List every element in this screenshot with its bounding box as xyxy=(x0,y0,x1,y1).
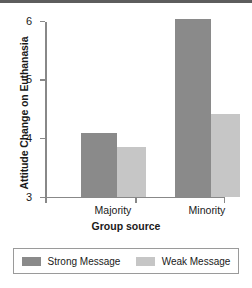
legend-label: Strong Message xyxy=(48,256,121,267)
x-axis-tick-label: Minority xyxy=(189,204,226,216)
legend-entry: Strong Message xyxy=(22,256,121,267)
legend-label: Weak Message xyxy=(162,256,231,267)
y-axis-title: Attitude Change on Euthanasia xyxy=(18,28,30,198)
y-axis-tick: 5 xyxy=(40,79,45,81)
legend-swatch xyxy=(22,257,41,266)
y-axis-tick-label: 4 xyxy=(26,132,32,144)
x-axis-tick xyxy=(224,198,226,203)
bar xyxy=(117,147,146,197)
y-axis-tick-label: 6 xyxy=(26,15,32,27)
top-border-rule xyxy=(0,0,252,3)
x-axis-tick xyxy=(135,198,137,203)
bar xyxy=(211,114,240,196)
y-axis-tick: 4 xyxy=(40,138,45,140)
y-axis-tick-label: 5 xyxy=(26,73,32,85)
x-axis-title: Group source xyxy=(0,220,252,232)
chart-legend: Strong MessageWeak Message xyxy=(13,248,239,274)
x-axis-tick xyxy=(45,198,47,203)
figure-bar-chart: Attitude Change on Euthanasia 3456Majori… xyxy=(0,0,252,288)
legend-entry: Weak Message xyxy=(136,256,231,267)
y-axis-line xyxy=(45,22,47,198)
legend-swatch xyxy=(136,257,155,266)
bar xyxy=(81,133,117,196)
plot-area: 3456MajorityMinority xyxy=(45,22,225,198)
x-axis-tick-label: Majority xyxy=(95,204,132,216)
y-axis-tick-label: 3 xyxy=(26,191,32,203)
bar xyxy=(175,19,211,196)
y-axis-tick: 6 xyxy=(40,21,45,23)
